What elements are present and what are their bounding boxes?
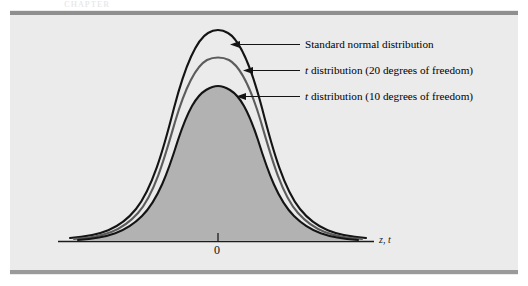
callout-t20 — [243, 67, 300, 74]
x-axis-label: z, t — [379, 234, 391, 245]
callout-arrowhead — [243, 67, 253, 74]
distribution-plot — [0, 0, 528, 286]
t10-fill — [78, 86, 358, 240]
annotation-t10: t distribution (10 degrees of freedom) — [305, 90, 473, 102]
axis-label-t: t — [388, 234, 391, 245]
annotation-text: Standard normal distribution — [305, 38, 434, 50]
annotation-t20: t distribution (20 degrees of freedom) — [305, 64, 473, 76]
callout-t10 — [236, 93, 300, 100]
x-axis-tick-label-zero: 0 — [214, 243, 220, 258]
figure-root: CHAPTER Standard — [0, 0, 528, 286]
callout-arrowhead — [230, 41, 240, 48]
annotation-standard-normal: Standard normal distribution — [305, 38, 434, 50]
annotation-text: distribution (10 degrees of freedom) — [308, 90, 473, 102]
annotation-text: distribution (20 degrees of freedom) — [308, 64, 473, 76]
